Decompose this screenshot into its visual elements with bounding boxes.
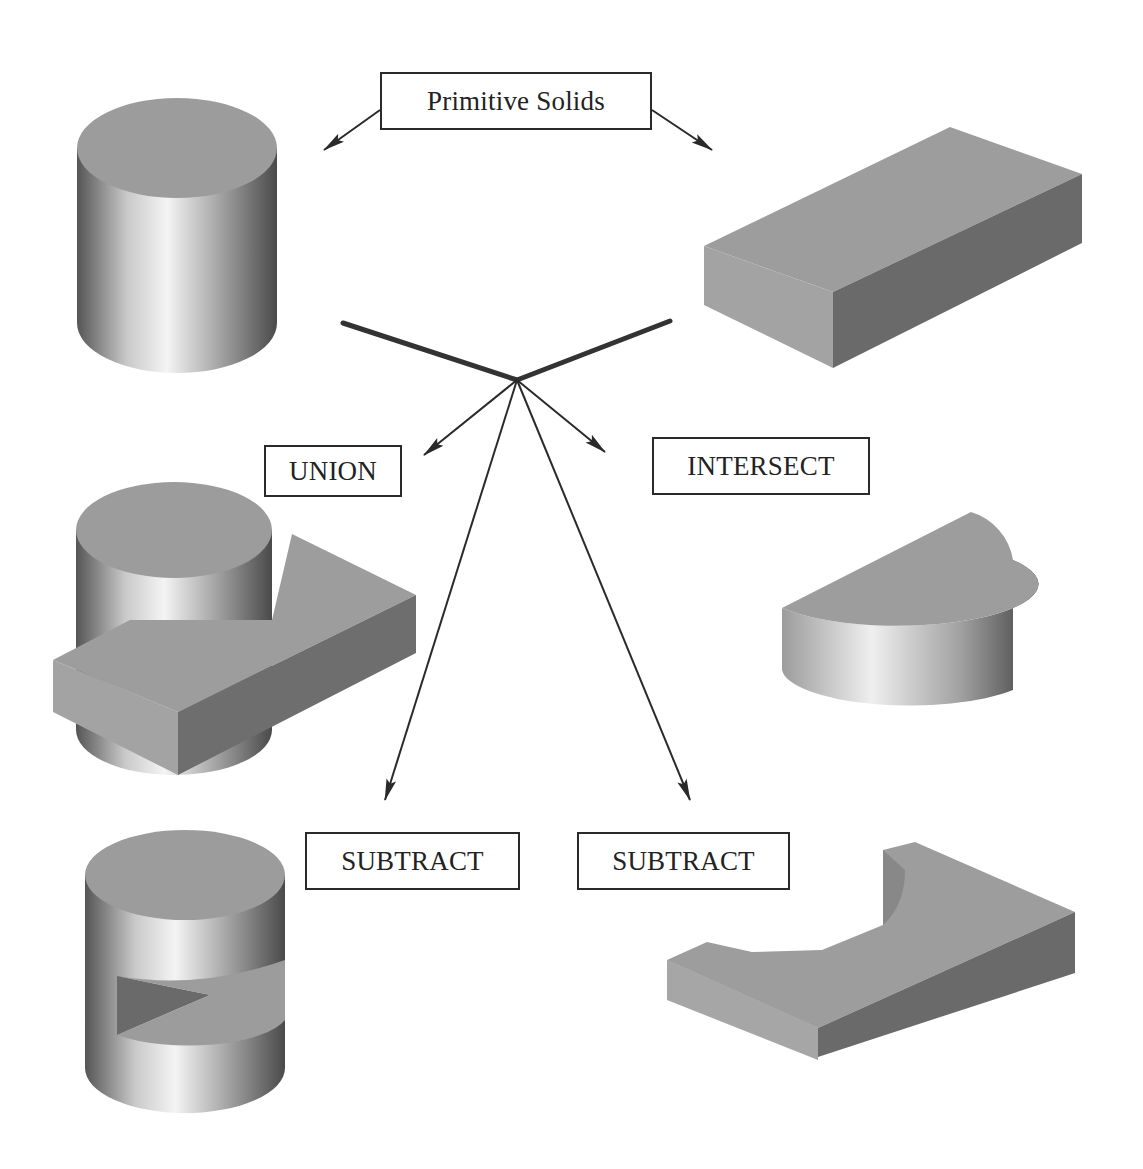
subtract-right-label: SUBTRACT bbox=[577, 832, 790, 890]
csg-diagram-canvas bbox=[0, 0, 1143, 1169]
primitive-solids-label: Primitive Solids bbox=[380, 72, 652, 130]
intersect-result-solid bbox=[782, 512, 1038, 706]
union-result-solid bbox=[53, 482, 416, 775]
combine-lines bbox=[343, 321, 670, 380]
intersect-label: INTERSECT bbox=[652, 437, 870, 495]
subtract-left-label: SUBTRACT bbox=[305, 832, 520, 890]
operation-arrows bbox=[385, 380, 690, 800]
union-label: UNION bbox=[264, 445, 402, 497]
primitive-cylinder bbox=[77, 98, 277, 373]
primitive-box bbox=[704, 127, 1082, 368]
subtract-left-result-solid bbox=[85, 830, 285, 1113]
